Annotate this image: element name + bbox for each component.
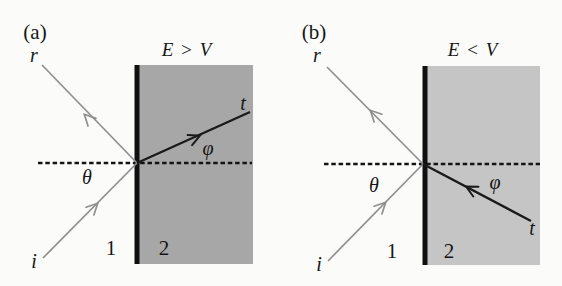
incident-ray-label: i [31,250,37,272]
incidence-angle-label: θ [369,174,379,196]
diagram-svg: (a) E > V r t φ θ 1 2 i [0,0,562,286]
medium-2-region [425,66,540,265]
condition-label: E > V [161,39,214,60]
medium-2-label: 2 [159,236,170,260]
medium-1-label: 1 [387,239,398,263]
incidence-angle-label: θ [82,166,92,188]
transmitted-ray-label: t [240,92,246,114]
refraction-angle-label: φ [489,171,500,194]
medium-1-label: 1 [106,236,117,260]
reflected-ray [42,65,137,163]
panel-a: (a) E > V r t φ θ 1 2 i [23,20,253,272]
medium-2-label: 2 [444,239,455,263]
condition-label: E < V [447,39,500,60]
panel-label: (a) [23,20,46,44]
panel-b: (b) E < V r φ θ t 1 2 i [302,20,540,275]
quantum-step-refraction-figure: (a) E > V r t φ θ 1 2 i [0,0,562,286]
reflected-ray [327,67,423,164]
transmitted-ray-label: t [529,217,535,239]
incident-ray-label: i [316,253,322,275]
reflected-ray-label: r [313,44,321,66]
refraction-angle-label: φ [202,137,213,160]
panel-label: (b) [302,20,327,44]
medium-2-region [137,65,253,264]
reflected-ray-label: r [30,44,38,66]
